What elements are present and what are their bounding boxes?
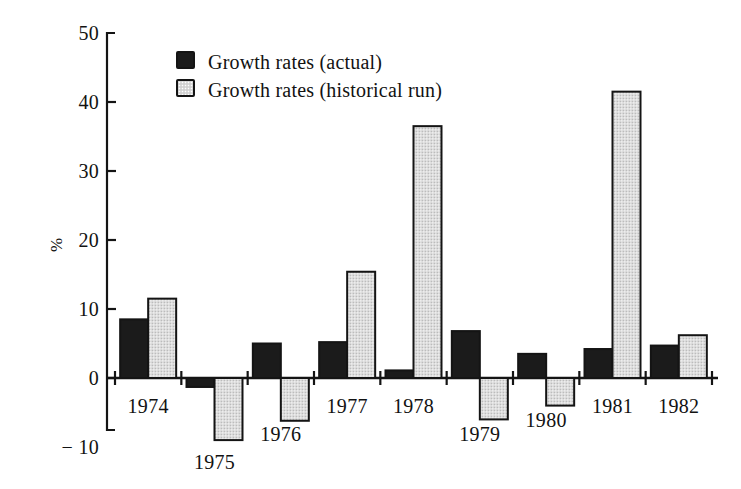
x-category-label-1979: 1979	[445, 424, 515, 444]
legend-label-historical: Growth rates (historical run)	[208, 80, 442, 100]
y-tick-label-20: 20	[78, 230, 99, 250]
bar-1978-actual	[386, 370, 414, 378]
bar-1974-actual	[120, 319, 148, 378]
bar-1979-historical	[480, 378, 508, 419]
x-category-label-1981: 1981	[578, 396, 648, 416]
bar-1980-actual	[518, 354, 546, 378]
x-category-label-1980: 1980	[511, 410, 581, 430]
bar-1974-historical	[148, 299, 176, 378]
legend-swatch-historical	[176, 79, 195, 97]
bars-layer	[120, 92, 707, 440]
y-tick-label-40: 40	[78, 92, 99, 112]
y-axis-title: %	[48, 238, 65, 252]
x-category-label-1975: 1975	[180, 452, 250, 472]
y-tick-label-30: 30	[78, 161, 99, 181]
bar-1977-actual	[319, 342, 347, 378]
x-category-label-1976: 1976	[246, 424, 316, 444]
bar-chart-figure: % 50403020100− 10 1974197519761977197819…	[0, 0, 741, 489]
legend-swatch-actual	[176, 51, 195, 69]
x-category-label-1977: 1977	[312, 396, 382, 416]
y-axis-line	[107, 33, 115, 430]
bar-1981-actual	[585, 349, 613, 378]
x-category-label-1982: 1982	[644, 396, 714, 416]
bar-1976-actual	[253, 344, 281, 379]
bar-1977-historical	[347, 272, 375, 378]
y-tick-label-50: 50	[78, 23, 99, 43]
bar-1980-historical	[546, 378, 574, 406]
legend-label-actual: Growth rates (actual)	[208, 52, 382, 72]
bar-1979-actual	[452, 331, 480, 378]
y-tick-label-10: 10	[78, 299, 99, 319]
bar-1981-historical	[613, 92, 641, 378]
bar-1982-actual	[651, 346, 679, 378]
y-tick-label-0: 0	[89, 368, 99, 388]
x-category-label-1978: 1978	[379, 396, 449, 416]
bar-1976-historical	[281, 378, 309, 421]
y-tick-label--10: − 10	[62, 437, 99, 457]
bar-1978-historical	[414, 126, 442, 378]
bar-1982-historical	[679, 335, 707, 378]
bar-1975-historical	[215, 378, 243, 440]
bar-1975-actual	[187, 378, 215, 387]
x-category-label-1974: 1974	[113, 396, 183, 416]
